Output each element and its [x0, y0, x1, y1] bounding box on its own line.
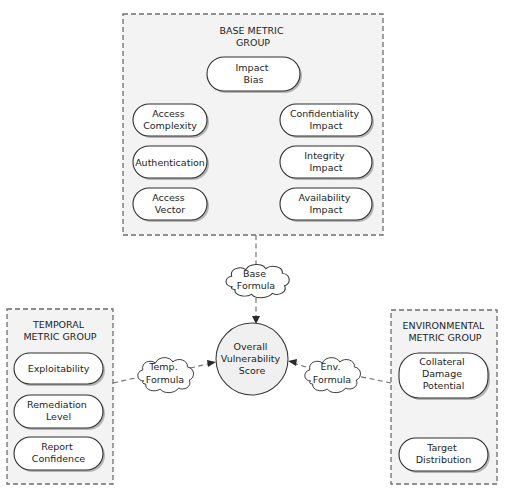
metric-integrity-impact: Integrity Impact	[280, 146, 374, 180]
metric-collateral-damage-potential: Collateral Damage Potential	[399, 353, 490, 400]
svg-text:Exploitability: Exploitability	[28, 363, 90, 374]
overall-vulnerability-score: Overall Vulnerability Score	[216, 323, 288, 395]
metric-impact-bias: Impact Bias	[207, 57, 302, 93]
connector-temporal-to-formula	[113, 377, 140, 383]
metric-report-confidence: Report Confidence	[14, 437, 105, 472]
connector-environmental-to-formula	[357, 376, 391, 383]
connector-temp-formula-to-score	[190, 364, 208, 368]
environmental-metric-group: ENVIRONMENTAL METRIC GROUP Collateral Da…	[391, 310, 497, 484]
svg-text:Authentication: Authentication	[135, 157, 205, 168]
metric-confidentiality-impact: Confidentiality Impact	[280, 104, 374, 138]
temporal-metric-group: TEMPORAL METRIC GROUP Exploitability Rem…	[7, 309, 113, 484]
cvss-diagram: BASE METRIC GROUP Impact Bias Access Com…	[0, 0, 513, 501]
metric-access-complexity: Access Complexity	[133, 104, 209, 138]
environmental-group-title: ENVIRONMENTAL METRIC GROUP	[403, 320, 488, 343]
metric-remediation-level: Remediation Level	[14, 395, 105, 430]
base-metric-group: BASE METRIC GROUP Impact Bias Access Com…	[123, 14, 383, 235]
metric-authentication: Authentication	[133, 146, 209, 180]
svg-text:Access Vector: Access Vector	[152, 192, 188, 215]
arrow-right-icon	[207, 360, 216, 367]
metric-access-vector: Access Vector	[133, 188, 209, 222]
arrow-left-icon	[288, 359, 297, 366]
metric-availability-impact: Availability Impact	[280, 188, 374, 222]
connector-env-formula-to-score	[296, 364, 306, 367]
metric-exploitability: Exploitability	[14, 353, 105, 386]
metric-target-distribution: Target Distribution	[399, 438, 490, 473]
temporal-group-title: TEMPORAL METRIC GROUP	[23, 319, 96, 342]
svg-text:Collateral Damage: Collateral Damage Potential	[419, 356, 468, 391]
svg-text:Integrity Impact: Integrity Impact	[304, 150, 347, 173]
